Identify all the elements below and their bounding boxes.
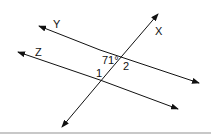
line-x-bottom <box>62 70 110 127</box>
angle-2-label: 2 <box>123 60 129 72</box>
label-y: Y <box>53 18 61 30</box>
angle-71-label: 71° <box>102 54 119 66</box>
angle-1-label: 1 <box>96 67 102 79</box>
label-z: Z <box>35 46 42 58</box>
bottom-divider <box>0 132 211 134</box>
label-x: X <box>155 25 163 37</box>
line-z <box>18 52 100 80</box>
line-y <box>39 26 100 50</box>
line-z-right <box>100 80 178 109</box>
parallel-lines-transversal-diagram: Y X Z 71° 2 1 <box>0 0 211 135</box>
